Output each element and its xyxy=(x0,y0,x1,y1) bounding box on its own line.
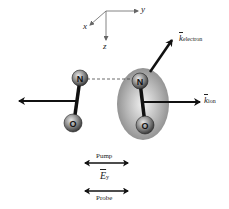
k-electron-subscript: electron xyxy=(183,36,202,42)
coordinate-axes xyxy=(90,11,138,40)
k-ion-label: kion xyxy=(204,95,216,105)
svg-text:N: N xyxy=(77,74,84,84)
k-electron-arrow xyxy=(150,40,172,72)
k-ion-subscript: ion xyxy=(208,98,216,104)
z-axis-label: z xyxy=(103,41,107,51)
svg-text:O: O xyxy=(69,119,76,129)
probe-label: Probe xyxy=(96,194,112,202)
svg-text:N: N xyxy=(137,77,144,87)
x-axis-label: x xyxy=(83,21,87,31)
no-dimer-dissociation-diagram: N O N O y x z kelectron kion Pump Ey Pro… xyxy=(0,0,229,209)
diagram-canvas: N O N O xyxy=(0,0,229,209)
svg-text:O: O xyxy=(141,121,148,131)
field-subscript: y xyxy=(106,174,109,180)
right-n-atom: N xyxy=(132,73,148,89)
y-axis-label: y xyxy=(141,4,145,14)
right-o-atom: O xyxy=(136,116,154,134)
left-o-atom: O xyxy=(64,114,82,132)
pump-label: Pump xyxy=(96,152,112,160)
field-label: Ey xyxy=(100,170,109,181)
left-n-atom: N xyxy=(72,70,88,86)
k-electron-label: kelectron xyxy=(179,33,202,43)
